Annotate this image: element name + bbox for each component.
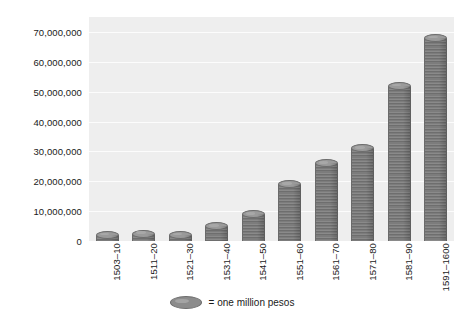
coin-stack — [351, 148, 374, 241]
coin-stack-top-icon — [242, 210, 265, 218]
legend-label: = one million pesos — [209, 297, 295, 308]
coin-stack — [242, 214, 265, 241]
y-axis-tick-label: 30,000,000 — [33, 146, 82, 157]
bar — [235, 17, 272, 241]
chart-figure: 010,000,00020,000,00030,000,00040,000,00… — [0, 0, 464, 321]
chart-legend: = one million pesos — [0, 296, 464, 309]
coin-stack-top-icon — [278, 180, 301, 188]
bar — [381, 17, 418, 241]
bar — [308, 17, 345, 241]
coin-stack-top-icon — [205, 222, 228, 230]
coin-stack-top-icon — [169, 231, 192, 239]
bar — [272, 17, 309, 241]
y-axis-tick-label: 20,000,000 — [33, 176, 82, 187]
y-axis-tick-label: 70,000,000 — [33, 26, 82, 37]
bar — [345, 17, 382, 241]
coin-stack — [205, 226, 228, 241]
bar — [162, 17, 199, 241]
bar — [199, 17, 236, 241]
x-axis-tick-label: 1521–30 — [184, 243, 195, 281]
coin-stack-top-icon — [132, 230, 155, 238]
bar — [418, 17, 455, 241]
coin-stack-top-icon — [388, 82, 411, 90]
coin-stack-top-icon — [424, 34, 447, 42]
coin-stack — [132, 234, 155, 241]
x-axis-tick-label: 1511–20 — [148, 243, 159, 280]
x-axis-tick-label: 1591–1600 — [440, 243, 451, 291]
bar — [89, 17, 126, 241]
x-axis-tick-label: 1581–90 — [403, 243, 414, 281]
x-axis-tick-label: 1571–80 — [367, 243, 378, 281]
coin-stack — [315, 163, 338, 241]
coin-stack — [388, 86, 411, 241]
y-axis-tick-label: 40,000,000 — [33, 116, 82, 127]
y-axis-tick-label: 50,000,000 — [33, 86, 82, 97]
coin-stack — [278, 184, 301, 241]
coin-stack — [424, 38, 447, 241]
y-axis-tick-label: 10,000,000 — [33, 206, 82, 217]
y-axis-tick-label: 60,000,000 — [33, 56, 82, 67]
y-axis: 010,000,00020,000,00030,000,00040,000,00… — [0, 0, 89, 241]
x-axis-tick-label: 1561–70 — [330, 243, 341, 281]
x-axis-tick-label: 1531–40 — [221, 243, 232, 281]
y-axis-tick-label: 0 — [77, 236, 82, 247]
coin-stack-ellipse-icon — [170, 296, 202, 309]
x-axis-tick-label: 1541–50 — [257, 243, 268, 281]
x-axis: 1503–101511–201521–301531–401541–501551–… — [89, 241, 454, 301]
bar-series — [89, 17, 454, 241]
coin-stack-top-icon — [96, 231, 119, 239]
x-axis-tick-label: 1503–10 — [111, 243, 122, 281]
x-axis-tick-label: 1551–60 — [294, 243, 305, 281]
coin-stack-top-icon — [315, 159, 338, 167]
coin-stack-top-icon — [351, 144, 374, 152]
bar — [126, 17, 163, 241]
